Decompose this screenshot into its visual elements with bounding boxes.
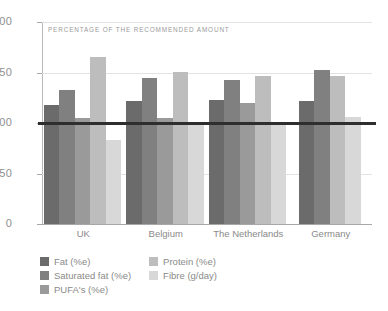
y-tick-label-100: 100 [0, 116, 12, 128]
y-tick-mark-200 [37, 22, 42, 23]
chart-container: PERCENTAGE OF THE RECOMMENDED AMOUNT UKB… [0, 0, 388, 311]
bar[interactable] [59, 90, 75, 224]
y-tick-label-50: 50 [0, 167, 12, 179]
chart-title: PERCENTAGE OF THE RECOMMENDED AMOUNT [48, 26, 230, 33]
legend-swatch-icon [40, 257, 49, 266]
bar[interactable] [271, 125, 287, 224]
legend-swatch-icon [149, 271, 158, 280]
legend-column-right: Protein (%e)Fibre (g/day) [149, 255, 217, 295]
category-label: Belgium [125, 228, 208, 239]
legend-label: PUFA's (%e) [54, 284, 108, 295]
legend-label: Fibre (g/day) [163, 270, 217, 281]
chart-legend: Fat (%e)Saturated fat (%e)PUFA's (%e) Pr… [40, 255, 217, 295]
bar[interactable] [188, 124, 204, 224]
x-axis [42, 224, 372, 225]
plot-area: UKBelgiumThe NetherlandsGermany [42, 22, 372, 224]
category-label: UK [42, 228, 125, 239]
bar[interactable] [224, 80, 240, 224]
y-tick-label-150: 150 [0, 66, 12, 78]
bar[interactable] [106, 140, 122, 224]
legend-item[interactable]: Fat (%e) [40, 255, 131, 267]
bar[interactable] [255, 76, 271, 224]
legend-swatch-icon [149, 257, 158, 266]
bar[interactable] [330, 76, 346, 224]
bar[interactable] [240, 103, 256, 224]
category-label: Germany [290, 228, 373, 239]
legend-label: Protein (%e) [163, 256, 216, 267]
y-tick-mark-50 [37, 174, 42, 175]
bar[interactable] [314, 70, 330, 224]
category-label: The Netherlands [207, 228, 290, 239]
legend-label: Fat (%e) [54, 256, 90, 267]
bar[interactable] [157, 118, 173, 224]
legend-column-left: Fat (%e)Saturated fat (%e)PUFA's (%e) [40, 255, 131, 295]
bar[interactable] [299, 101, 315, 224]
bar[interactable] [173, 72, 189, 225]
reference-line-100 [38, 122, 376, 125]
bar[interactable] [126, 101, 142, 224]
legend-item[interactable]: Protein (%e) [149, 255, 217, 267]
bar[interactable] [142, 78, 158, 224]
y-tick-label-200: 200 [0, 15, 12, 27]
y-tick-mark-0 [37, 224, 42, 225]
legend-swatch-icon [40, 271, 49, 280]
y-tick-mark-150 [37, 73, 42, 74]
legend-item[interactable]: Saturated fat (%e) [40, 269, 131, 281]
y-tick-label-0: 0 [0, 217, 12, 229]
legend-label: Saturated fat (%e) [54, 270, 131, 281]
bar[interactable] [75, 118, 91, 224]
legend-item[interactable]: PUFA's (%e) [40, 283, 131, 295]
bar[interactable] [345, 117, 361, 224]
bar[interactable] [90, 57, 106, 224]
legend-swatch-icon [40, 285, 49, 294]
bar[interactable] [209, 100, 225, 224]
legend-item[interactable]: Fibre (g/day) [149, 269, 217, 281]
